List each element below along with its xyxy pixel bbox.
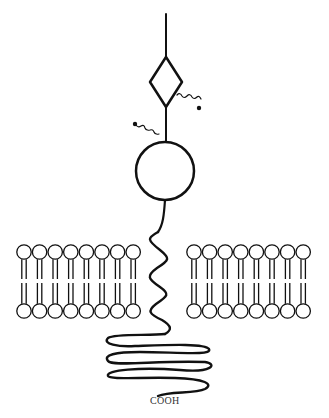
lipid-head — [234, 304, 248, 318]
lipid-head — [95, 304, 109, 318]
phospholipid — [280, 245, 294, 318]
phospholipid — [249, 245, 263, 318]
phospholipid — [265, 245, 279, 318]
lipid-head — [280, 304, 294, 318]
phospholipid — [126, 245, 140, 318]
c-terminus-label: COOH — [150, 395, 180, 406]
phospholipid — [202, 245, 216, 318]
lipid-head — [79, 245, 93, 259]
lipid-head — [64, 304, 78, 318]
phospholipid — [187, 245, 201, 318]
lipid-head — [110, 304, 124, 318]
lipid-head — [202, 304, 216, 318]
phospholipid — [17, 245, 31, 318]
lipid-head — [48, 304, 62, 318]
lipid-head — [265, 245, 279, 259]
membrane-right — [187, 245, 311, 318]
lipid-head — [265, 304, 279, 318]
lipid-head — [110, 245, 124, 259]
lipid-head — [17, 245, 31, 259]
phospholipid — [296, 245, 310, 318]
membrane-left — [17, 245, 141, 318]
lipid-head — [32, 304, 46, 318]
lipid-head — [64, 245, 78, 259]
lipid-head — [202, 245, 216, 259]
phospholipid — [110, 245, 124, 318]
lipid-head — [126, 245, 140, 259]
lipid-head — [187, 245, 201, 259]
lipid-head — [249, 245, 263, 259]
phospholipid — [95, 245, 109, 318]
lipid-head — [218, 304, 232, 318]
phospholipid — [48, 245, 62, 318]
protein-diagram — [0, 0, 329, 418]
lipid-head — [32, 245, 46, 259]
lipid-head — [187, 304, 201, 318]
lipid-head — [218, 245, 232, 259]
lipid-head — [280, 245, 294, 259]
glycan-dot-1 — [197, 106, 201, 110]
phospholipid — [234, 245, 248, 318]
glycan-chain-1 — [177, 94, 201, 99]
phospholipid — [32, 245, 46, 318]
phospholipid — [218, 245, 232, 318]
globular-domain — [136, 142, 194, 200]
cytoplasmic-coil — [107, 334, 212, 396]
lipid-head — [126, 304, 140, 318]
glycan-chain-2 — [136, 125, 159, 134]
lipid-head — [79, 304, 93, 318]
lipid-head — [296, 245, 310, 259]
lipid-head — [48, 245, 62, 259]
lipid-head — [95, 245, 109, 259]
lipid-head — [249, 304, 263, 318]
phospholipid — [64, 245, 78, 318]
lipid-head — [17, 304, 31, 318]
diamond-domain — [150, 57, 182, 107]
phospholipid — [79, 245, 93, 318]
lipid-head — [296, 304, 310, 318]
lipid-head — [234, 245, 248, 259]
transmembrane-helix — [150, 232, 170, 334]
connector-chain — [158, 200, 165, 232]
glycan-dot-2 — [133, 122, 137, 126]
